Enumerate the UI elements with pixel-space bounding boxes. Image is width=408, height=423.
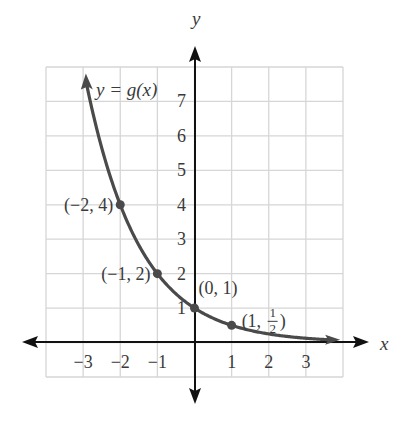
y-axis-label: y: [190, 8, 201, 29]
point-label: (0, 1): [199, 278, 238, 299]
curve-path: [87, 85, 328, 339]
svg-text:1: 1: [269, 305, 276, 320]
x-tick-label: −3: [74, 352, 93, 372]
exponential-graph: x y −3−2−11231234567 (−2, 4)(−1, 2)(0, 1…: [0, 0, 408, 423]
data-point-marker: [190, 304, 199, 313]
x-tick-label: 3: [301, 352, 310, 372]
data-point-marker: [153, 269, 162, 278]
function-label: y = g(x): [94, 79, 157, 101]
svg-text:2: 2: [269, 321, 276, 336]
y-tick-label: 2: [177, 264, 186, 284]
data-points: (−2, 4)(−1, 2)(0, 1)(1,12): [64, 195, 286, 337]
y-tick-label: 4: [177, 195, 186, 215]
x-tick-label: 1: [227, 352, 236, 372]
y-tick-label: 3: [177, 229, 186, 249]
svg-text:(1,: (1,: [242, 311, 262, 332]
svg-text:): ): [280, 311, 286, 332]
x-tick-label: −1: [148, 352, 167, 372]
data-point-marker: [227, 321, 236, 330]
x-axis-label: x: [379, 333, 389, 354]
data-point-marker: [116, 200, 125, 209]
y-tick-label: 5: [177, 160, 186, 180]
x-tick-label: 2: [264, 352, 273, 372]
y-tick-label: 7: [177, 91, 186, 111]
x-tick-label: −2: [111, 352, 130, 372]
point-label: (−2, 4): [64, 195, 113, 216]
point-label: (−1, 2): [101, 264, 150, 285]
y-tick-label: 6: [177, 126, 186, 146]
